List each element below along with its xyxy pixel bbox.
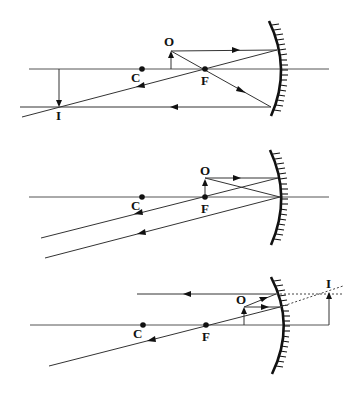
object-label: O: [200, 163, 210, 178]
ray-diagram-figure: O C F I: [0, 0, 361, 394]
focus-point: [202, 66, 208, 72]
object-arrowhead-icon: [202, 179, 208, 186]
center-label: C: [131, 198, 140, 213]
focus-point: [203, 322, 209, 328]
focus-point: [202, 194, 208, 200]
reflected-ray-2: [45, 197, 280, 258]
virtual-ray-extension-2: [280, 286, 343, 307]
reflected-ray-1: [41, 178, 278, 238]
panel-3: O C F I: [30, 276, 343, 374]
object-label: O: [236, 292, 246, 307]
incident-ray-parallel: [171, 50, 277, 51]
panel-2: O C F: [29, 150, 329, 258]
center-label: C: [133, 326, 142, 341]
incident-ray-through-F: [171, 51, 271, 107]
panel-1: O C F I: [20, 21, 329, 123]
mirror-hatching: [274, 280, 290, 367]
focus-label: F: [201, 201, 209, 216]
incident-ray-from-C: [244, 294, 276, 307]
image-label: I: [326, 276, 331, 291]
reflected-ray-through-F: [49, 307, 280, 366]
focus-label: F: [202, 329, 210, 344]
image-label: I: [56, 108, 61, 123]
center-label: C: [131, 70, 140, 85]
object-arrowhead-icon: [241, 307, 247, 314]
image-arrowhead-icon: [326, 292, 332, 299]
object-label: O: [164, 34, 174, 49]
focus-label: F: [201, 73, 209, 88]
image-arrowhead-icon: [56, 100, 62, 107]
